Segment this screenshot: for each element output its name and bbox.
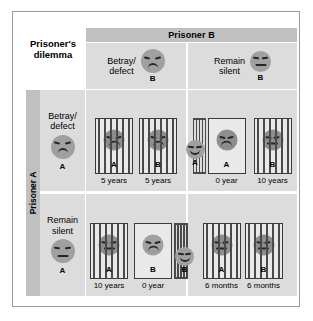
sentence-label: 5 years [145, 176, 171, 185]
neutral-face-icon [250, 51, 271, 72]
sentence-label: 0 year [142, 281, 164, 290]
cell-silent-betray: A 10 years B 0 year [86, 194, 186, 296]
sentence-label: 6 months [247, 281, 280, 290]
row-header-betray-label: Betray/defect [48, 111, 77, 132]
column-header-remain-silent: Remainsilent B [188, 43, 297, 89]
row-axis-label-prisoner-a: Prisoner A [26, 90, 40, 296]
sad-face-icon [148, 130, 169, 151]
prisoner-tag: B [261, 265, 267, 274]
sentence-label: 6 months [205, 281, 238, 290]
neutral-face-icon [99, 235, 120, 256]
outcome-a: A 6 months [203, 223, 241, 290]
row-header-betray-defect: Betray/defect A [40, 90, 85, 191]
outcome-b: B 0 year B [134, 223, 172, 290]
happy-face-icon [186, 140, 205, 159]
neutral-face-icon [262, 130, 283, 151]
neutral-face-icon [51, 239, 75, 263]
outcome-a: A 5 years [95, 118, 133, 185]
sentence-label: 5 years [101, 176, 127, 185]
jail-cell: B [139, 118, 177, 174]
cell-betray-silent: A A 0 year [188, 90, 297, 191]
jail-cell: A [95, 118, 133, 174]
column-header-betray-avatar: B [141, 49, 165, 83]
jail-cell: B [245, 223, 283, 279]
row-axis-label-text: Prisoner A [28, 172, 38, 215]
outcome-a: A A 0 year [208, 118, 246, 185]
prisoners-dilemma-figure: Prisoner's dilemma Prisoner B Prisoner A… [0, 0, 313, 321]
prisoner-tag: A [111, 160, 117, 169]
happy-face-icon [175, 247, 194, 266]
neutral-face-icon [211, 235, 232, 256]
prisoner-tag: A [106, 265, 112, 274]
jail-cell: A [90, 223, 128, 279]
prisoner-tag: A [219, 265, 225, 274]
freed-prisoner-tag: B [182, 265, 188, 274]
outcome-b: B 5 years [139, 118, 177, 185]
sad-face-icon [51, 135, 75, 159]
prisoner-tag: B [270, 160, 276, 169]
sad-face-icon [143, 235, 164, 256]
cell-silent-silent: A 6 months B 6 months [188, 194, 297, 296]
column-axis-label-text: Prisoner B [168, 30, 215, 40]
outcome-b: B 6 months [245, 223, 283, 290]
freed-prisoner-tag: A [192, 158, 198, 167]
sentence-label: 0 year [215, 176, 237, 185]
prisoner-tag: B [155, 160, 161, 169]
sad-face-icon [104, 130, 125, 151]
sentence-label: 10 years [94, 281, 125, 290]
column-header-silent-label: Remainsilent [214, 56, 245, 77]
outcome-a: A 10 years [90, 223, 128, 290]
freed-prisoner-avatar: B [175, 247, 194, 266]
prisoner-tag: A [224, 160, 230, 169]
sad-face-icon [216, 130, 237, 151]
sad-face-icon [141, 49, 165, 73]
row-header-remain-silent: Remainsilent A [40, 194, 85, 296]
row-divider [40, 191, 297, 194]
column-header-betray-label: Betray/defect [107, 56, 136, 77]
row-header-silent-label: Remainsilent [47, 215, 78, 236]
column-header-betray-defect: Betray/defect B [86, 43, 186, 89]
jail-cell: A [203, 223, 241, 279]
sentence-label: 10 years [257, 176, 288, 185]
column-header-silent-avatar: B [250, 51, 271, 82]
outcome-b: B 10 years [254, 118, 292, 185]
column-axis-label-prisoner-b: Prisoner B [86, 28, 297, 42]
column-header-betray-tag: B [150, 74, 156, 83]
open-jail-cell: B [134, 223, 172, 279]
column-header-silent-tag: B [258, 73, 264, 82]
freed-prisoner-avatar: A [186, 140, 205, 159]
prisoner-tag: B [150, 265, 156, 274]
open-jail-cell: A [208, 118, 246, 174]
page-title: Prisoner's dilemma [22, 38, 84, 60]
jail-cell: B [254, 118, 292, 174]
row-header-betray-tag: A [60, 162, 66, 171]
row-header-silent-tag: A [60, 266, 66, 275]
cell-betray-betray: A 5 years B 5 years [86, 90, 186, 191]
neutral-face-icon [253, 235, 274, 256]
